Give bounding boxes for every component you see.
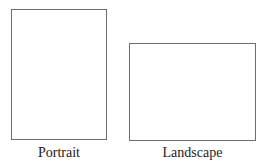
landscape-page-rectangle	[129, 43, 256, 141]
landscape-label: Landscape	[129, 145, 256, 161]
portrait-label: Portrait	[11, 145, 107, 161]
portrait-page-rectangle	[11, 9, 107, 140]
